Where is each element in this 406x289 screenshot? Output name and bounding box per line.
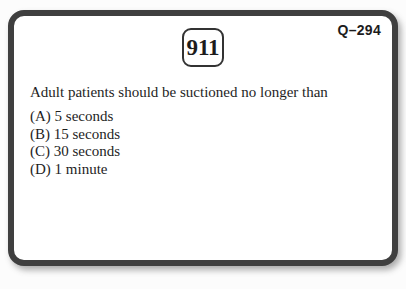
- answer-option-a: (A) 5 seconds: [30, 108, 378, 126]
- question-text: Adult patients should be suctioned no lo…: [30, 83, 378, 101]
- question-number-badge: 911: [182, 28, 224, 67]
- question-number: 911: [186, 35, 219, 61]
- answer-option-d: (D) 1 minute: [30, 161, 378, 179]
- question-code: Q–294: [337, 22, 381, 38]
- answer-options: (A) 5 seconds (B) 15 seconds (C) 30 seco…: [30, 108, 378, 178]
- answer-option-b: (B) 15 seconds: [30, 126, 378, 144]
- flashcard: Q–294 911 Adult patients should be sucti…: [8, 10, 398, 266]
- answer-option-c: (C) 30 seconds: [30, 143, 378, 161]
